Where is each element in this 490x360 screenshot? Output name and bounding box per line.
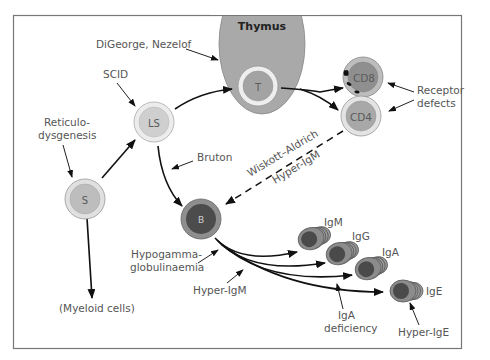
reticulodysgenesis-label-2: dysgenesis — [38, 129, 96, 141]
digeorge-label: DiGeorge, Nezelof — [96, 38, 192, 50]
cd8-cell: CD8 — [343, 57, 383, 97]
iga-deficiency-label-2: deficiency — [324, 322, 378, 334]
cd4-cell-label: CD4 — [350, 111, 372, 123]
stem-cell-label: S — [82, 195, 88, 206]
hyper-ige-label: Hyper-IgE — [398, 326, 449, 338]
ige-label: IgE — [426, 285, 442, 297]
cd8-cell-label: CD8 — [353, 72, 375, 84]
cd4-cell: CD4 — [341, 96, 381, 136]
t-cell-label: T — [254, 82, 262, 93]
plasma-cell-ige — [390, 280, 423, 302]
hypogammaglobulinaemia-label-1: Hypogamma- — [131, 248, 202, 260]
iga-deficiency-label-1: IgA — [338, 309, 356, 321]
b-cell-label: B — [198, 215, 204, 225]
iga-label: IgA — [382, 246, 400, 258]
igm-label: IgM — [324, 216, 343, 228]
b-cell: B — [181, 199, 221, 239]
stem-cell: S — [65, 179, 105, 219]
thymus-label: Thymus — [238, 20, 287, 33]
myeloid-cells-label: (Myeloid cells) — [59, 302, 135, 314]
receptor-defects-label-1: Receptor — [417, 84, 465, 96]
hyper-igm-label: Hyper-IgM — [193, 284, 247, 296]
reticulodysgenesis-label-1: Reticulo- — [44, 116, 90, 128]
lymphoid-stem-cell: LS — [134, 102, 174, 142]
immunodeficiency-diagram: Thymus S LS T — [0, 0, 490, 360]
scid-label: SCID — [103, 68, 128, 80]
igg-label: IgG — [352, 230, 370, 242]
hypogammaglobulinaemia-label-2: globulinaemia — [130, 261, 204, 273]
receptor-defects-label-2: defects — [417, 97, 456, 109]
receptor-mark — [345, 70, 348, 76]
bruton-label: Bruton — [197, 151, 232, 163]
lymphoid-stem-cell-label: LS — [148, 118, 160, 129]
t-cell: T — [238, 66, 278, 106]
